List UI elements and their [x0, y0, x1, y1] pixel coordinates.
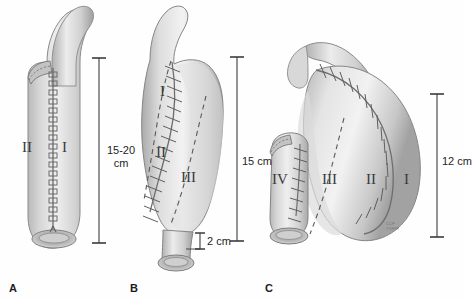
artist-signature: CCF ©1999: [386, 222, 399, 231]
segment-numeral-a-1: I: [62, 140, 67, 155]
dimension-label-b: 15 cm: [242, 155, 272, 168]
panel-letter-a: A: [9, 282, 17, 294]
dimension-bar-b: [230, 57, 244, 241]
proximal-limb-a: [52, 6, 94, 86]
lumen-inner-c: [276, 231, 302, 240]
segment-numeral-b-2: II: [156, 145, 166, 160]
segment-numeral-b-1: I: [160, 84, 165, 99]
lumen-inner-b: [164, 258, 188, 267]
panel-b-illustration: [142, 6, 244, 271]
segment-numeral-c-1: I: [404, 172, 409, 187]
dimension-label-a-line2: cm: [104, 157, 138, 170]
segment-numeral-c-3: III: [322, 172, 337, 187]
artist-signature-line2: ©1999: [386, 227, 399, 232]
panel-c-illustration: [270, 43, 444, 244]
segment-numeral-a-2: II: [22, 140, 32, 155]
dimension-label-a: 15-20 cm: [104, 144, 138, 170]
panel-letter-b: B: [130, 282, 138, 294]
dimension-label-a-line1: 15-20: [104, 144, 138, 157]
lumen-inner-a: [39, 233, 69, 243]
segment-numeral-c-4: IV: [272, 172, 288, 187]
panel-a-illustration: [28, 6, 106, 248]
segment-numeral-c-2: II: [366, 172, 376, 187]
dimension-label-c: 12 cm: [442, 155, 472, 168]
panel-letter-c: C: [265, 282, 273, 294]
dimension-label-b-distal: 2 cm: [207, 235, 231, 248]
segment-numeral-b-3: III: [181, 170, 196, 185]
proximal-limb-bend-c: [287, 46, 308, 88]
